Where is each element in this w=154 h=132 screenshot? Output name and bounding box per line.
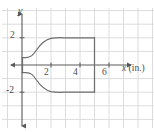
x-tick-label-4: 4 (73, 68, 78, 78)
curve-upper-profile (22, 38, 95, 58)
y-tick-label-neg2: -2 (6, 86, 14, 96)
curve-lower-profile (22, 73, 95, 93)
x-axis-label: x (in.) (122, 64, 145, 74)
y-tick-label-2: 2 (10, 31, 15, 41)
x-axis-label-unit: (in.) (129, 63, 145, 73)
figure-container: 2 4 6 2 -2 y x (in.) (0, 0, 154, 132)
x-tick-label-6: 6 (102, 68, 107, 78)
y-axis-label: y (18, 6, 22, 16)
x-tick-label-2: 2 (44, 68, 49, 78)
